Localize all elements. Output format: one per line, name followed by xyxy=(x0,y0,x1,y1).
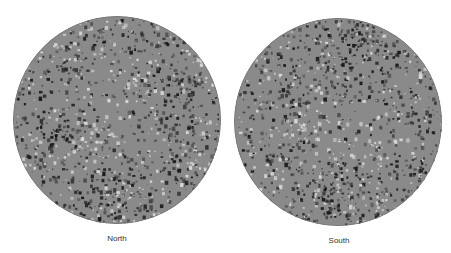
north-disk xyxy=(13,16,223,224)
south-label: South xyxy=(309,236,369,245)
north-hemisphere-disk xyxy=(0,0,451,253)
north-label: North xyxy=(87,234,147,243)
south-disk xyxy=(234,18,444,227)
